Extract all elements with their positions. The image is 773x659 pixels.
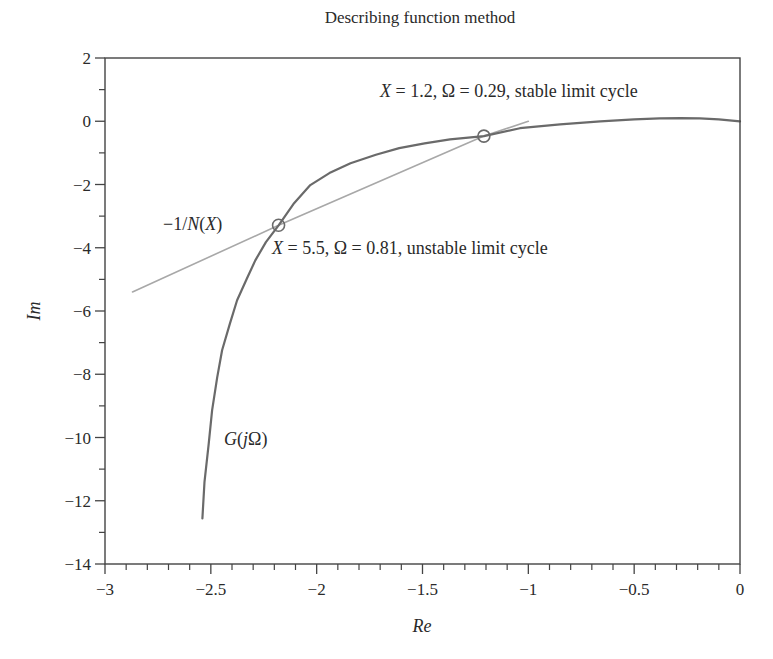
plot-area — [133, 118, 741, 518]
y-axis-label: Im — [24, 302, 44, 322]
x-tick-label: −0.5 — [619, 580, 650, 599]
x-tick-label: −2 — [308, 580, 326, 599]
y-tick-label: −2 — [73, 176, 91, 195]
x-tick-label: −1.5 — [407, 580, 438, 599]
axes: −3−2.5−2−1.5−1−0.5020−2−4−6−8−10−12−14 — [64, 49, 744, 599]
y-tick-label: −10 — [64, 429, 91, 448]
x-tick-label: −3 — [96, 580, 114, 599]
transfer-function-label: G(jΩ) — [224, 429, 267, 450]
y-tick-label: 0 — [83, 112, 92, 131]
chart-title: Describing function method — [325, 8, 516, 27]
describing-function-chart: −3−2.5−2−1.5−1−0.5020−2−4−6−8−10−12−14 D… — [0, 0, 773, 659]
unstable-limit-cycle-annotation: X = 5.5, Ω = 0.81, unstable limit cycle — [271, 238, 548, 258]
x-tick-label: 0 — [736, 580, 745, 599]
y-tick-label: −4 — [73, 239, 92, 258]
describing-function-line — [133, 121, 529, 292]
y-tick-label: −12 — [64, 492, 91, 511]
y-tick-label: −14 — [64, 555, 91, 574]
x-tick-label: −1 — [519, 580, 537, 599]
plot-frame — [105, 58, 740, 564]
x-axis-label: Re — [412, 616, 432, 636]
y-tick-label: 2 — [83, 49, 92, 68]
nyquist-curve — [202, 118, 740, 518]
x-tick-label: −2.5 — [195, 580, 226, 599]
y-tick-label: −6 — [73, 302, 91, 321]
describing-function-label: −1/N(X) — [163, 214, 222, 235]
y-tick-label: −8 — [73, 365, 91, 384]
stable-limit-cycle-annotation: X = 1.2, Ω = 0.29, stable limit cycle — [379, 81, 638, 101]
